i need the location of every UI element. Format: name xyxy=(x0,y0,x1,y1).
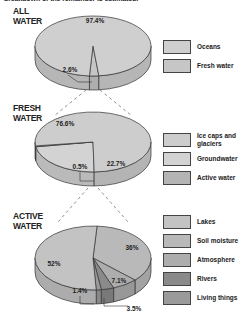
fresh-water-label-ice-caps-and-glaciers: 76.6% xyxy=(56,120,75,127)
all-water-label-oceans: 97.4% xyxy=(86,17,105,24)
active-water-side-rivers xyxy=(101,288,113,304)
fresh-water-label-groundwater: 22.7% xyxy=(107,160,126,167)
dashed-connector-2 xyxy=(58,188,88,222)
active-water-label-soil-moisture: 36% xyxy=(125,244,138,251)
all-water-side-fresh-water xyxy=(89,76,98,90)
all-water-label-fresh-water: 2.6% xyxy=(63,66,78,73)
dashed-connector-1 xyxy=(100,90,132,116)
fresh-water-label-active-water: 0.5% xyxy=(73,163,88,170)
dashed-connector-0 xyxy=(54,90,86,116)
active-water-label-rivers: 3.5% xyxy=(127,305,142,312)
active-water-label-living-things: 1.4% xyxy=(73,287,88,294)
active-water-label-lakes: 52% xyxy=(47,260,60,267)
pie-charts-svg: 97.4%2.6%76.6%22.7%0.5%52%36%7.1%3.5%1.4… xyxy=(0,0,250,328)
active-water-side-living-things xyxy=(96,290,101,304)
active-water-label-atmosphere: 7.1% xyxy=(112,277,127,284)
water-distribution-figure: breakdown of the remainder is estimated.… xyxy=(0,0,250,328)
dashed-connector-3 xyxy=(98,188,128,222)
